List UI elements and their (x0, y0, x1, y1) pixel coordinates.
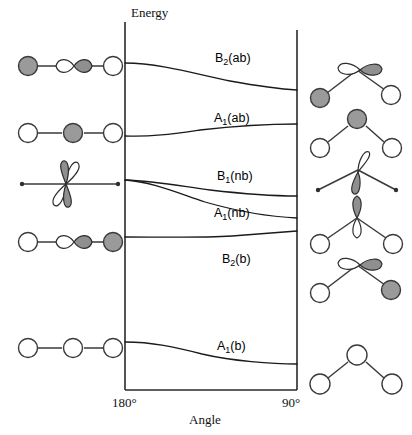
atom-empty (311, 284, 330, 303)
curve-a1-ab (125, 124, 297, 136)
curve-label-b2-ab: B2(ab) (215, 51, 251, 67)
atom-empty (311, 139, 330, 158)
atom-empty (104, 124, 123, 143)
atom-empty (19, 124, 38, 143)
atom-filled (64, 124, 83, 143)
curve-a1-nb (125, 180, 297, 218)
orbital-b2-b-bent (311, 258, 401, 302)
atom-empty (310, 374, 330, 394)
p-lobe-empty (338, 63, 360, 74)
atom-empty (104, 57, 123, 76)
orbital-b1-nb-linear (20, 161, 120, 207)
x-axis-right-tick-label: 90° (282, 395, 300, 410)
atom-empty (64, 339, 83, 358)
atom-filled (348, 110, 367, 129)
p-lobe-filled (353, 196, 361, 218)
curve-b2-b (125, 231, 297, 237)
atom-empty (384, 235, 403, 254)
axis-end-dot (394, 188, 398, 192)
bond-line (358, 170, 396, 190)
p-lobe-filled (360, 259, 382, 270)
axis-end-dot (20, 182, 24, 186)
curve-label-b1-nb: B1(nb) (217, 169, 253, 185)
curve-label-a1-b: A1(b) (217, 339, 246, 355)
atom-empty (347, 345, 367, 365)
bond-line (328, 126, 348, 142)
curve-a1-b (125, 342, 297, 364)
orbital-b2-ab-bent (311, 63, 401, 107)
atom-filled (311, 89, 330, 108)
bond-line (366, 362, 384, 378)
atom-empty (311, 235, 330, 254)
atom-empty (382, 374, 402, 394)
p-lobe-filled (360, 64, 382, 75)
curve-b1-nb (125, 180, 297, 196)
p-lobe-empty (338, 258, 360, 269)
axis-end-dot (116, 182, 120, 186)
p-lobe-filled (74, 60, 92, 73)
energy-curves (125, 63, 297, 364)
orbital-b2-b-linear (19, 233, 123, 252)
x-axis-left-tick-label: 180° (112, 395, 137, 410)
orbital-b1-nb-bent (316, 152, 398, 194)
curve-label-a1-ab: A1(ab) (214, 111, 250, 127)
p-lobe-empty (56, 60, 74, 73)
orbital-a1-b-bent (310, 345, 402, 394)
curve-label-b2-b: B2(b) (222, 252, 251, 268)
atom-empty (19, 339, 38, 358)
p-lobe-empty (56, 236, 74, 249)
p-lobe-filled (74, 236, 92, 249)
p-lobe-filled (352, 172, 360, 194)
atom-empty (382, 86, 401, 105)
bond-line (328, 362, 348, 378)
orbital-b2-ab-linear (19, 57, 123, 76)
atom-filled (382, 281, 401, 300)
atom-empty (104, 339, 123, 358)
orbital-a1-ab-bent (311, 110, 402, 158)
walsh-diagram-figure: Energy 180° 90° Angle B2(ab) A1(ab) B1(n… (0, 0, 412, 435)
y-axis-label: Energy (131, 5, 169, 20)
orbital-a1-b-linear (19, 339, 123, 358)
curve-label-a1-nb: A1(nb) (214, 206, 250, 222)
atom-empty (383, 139, 402, 158)
p-lobe-filled (64, 184, 72, 207)
p-lobe-empty (358, 152, 370, 172)
p-lobe-filled (61, 161, 69, 184)
bond-line (366, 126, 384, 142)
axis-end-dot (316, 188, 320, 192)
atom-filled (19, 57, 38, 76)
atom-empty (19, 233, 38, 252)
orbital-a1-nb-bent (311, 196, 403, 254)
orbital-a1-ab-linear (19, 124, 123, 143)
p-lobe-empty (353, 218, 361, 238)
curve-b2-ab (125, 63, 297, 90)
walsh-diagram-canvas: Energy 180° 90° Angle B2(ab) A1(ab) B1(n… (0, 0, 412, 435)
x-axis-label: Angle (189, 412, 221, 427)
atom-filled (104, 233, 123, 252)
